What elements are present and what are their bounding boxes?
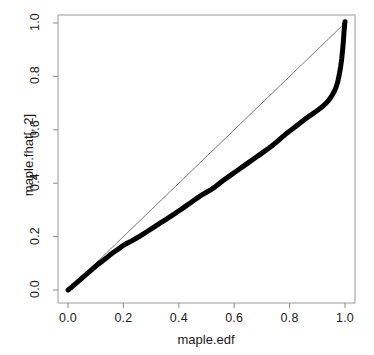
y-axis-ticks: [53, 23, 58, 290]
y-axis-title: maple.fhat[, 2]: [21, 114, 36, 196]
x-tick-label: 1.0: [336, 311, 354, 325]
x-axis-title: maple.edf: [177, 332, 234, 347]
x-tick-label: 0.8: [281, 311, 299, 325]
chart-container: 0.00.20.40.60.81.0 0.00.20.40.60.81.0 ma…: [0, 0, 374, 355]
x-tick-label: 0.2: [114, 311, 132, 325]
x-tick-label: 0.6: [225, 311, 243, 325]
y-tick-label: 0.2: [28, 221, 42, 251]
y-tick-label: 0.8: [28, 60, 42, 90]
reference-diagonal-line: [68, 23, 345, 290]
x-tick-label: 0.4: [170, 311, 188, 325]
x-axis-ticks: [68, 303, 345, 308]
y-tick-label: 0.0: [28, 274, 42, 304]
chart-canvas: [0, 0, 374, 355]
y-tick-label: 1.0: [28, 7, 42, 37]
x-tick-label: 0.0: [59, 311, 77, 325]
